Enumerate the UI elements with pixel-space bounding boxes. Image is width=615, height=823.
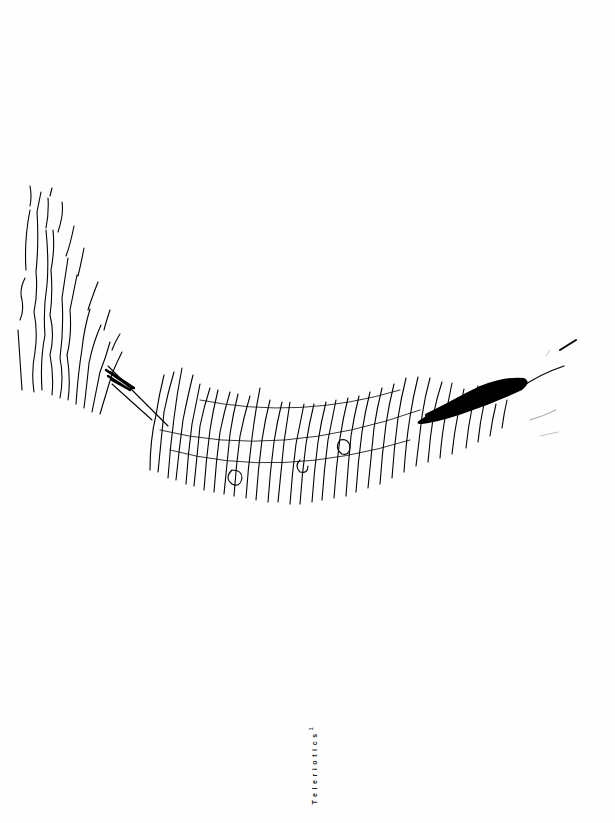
caption-title-text: Teleriotics (311, 730, 318, 804)
edge-dotted-text: · · · · · · · · · · · · (4, 227, 9, 313)
caption-superscript: 1 (308, 728, 314, 731)
page: · · · · · · · · · · · · Teleriotics1 (0, 0, 615, 823)
caption-title: Teleriotics1 (308, 728, 317, 805)
handwriting-arc-artwork (0, 0, 615, 823)
